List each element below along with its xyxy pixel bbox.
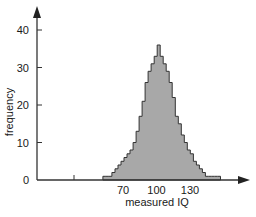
y-axis-arrow-icon — [33, 6, 41, 18]
x-axis-arrow-icon — [238, 176, 250, 184]
x-tick-label: 70 — [117, 184, 129, 196]
y-tick-label: 40 — [17, 24, 29, 36]
y-axis-label: frequency — [3, 87, 15, 136]
histogram-bars — [103, 45, 221, 180]
x-axis-label: measured IQ — [125, 196, 189, 208]
y-tick-label: 30 — [17, 62, 29, 74]
y-tick-label: 10 — [17, 137, 29, 149]
y-tick-label: 0 — [23, 174, 29, 186]
y-axis — [33, 6, 41, 180]
x-ticks: 70100130 — [117, 184, 199, 196]
x-tick-label: 130 — [181, 184, 199, 196]
y-ticks: 010203040 — [17, 24, 42, 186]
histogram-chart: 010203040 70100130 measured IQ frequency — [0, 0, 256, 217]
histogram-shape — [103, 45, 221, 180]
x-tick-label: 100 — [147, 184, 165, 196]
y-tick-label: 20 — [17, 99, 29, 111]
